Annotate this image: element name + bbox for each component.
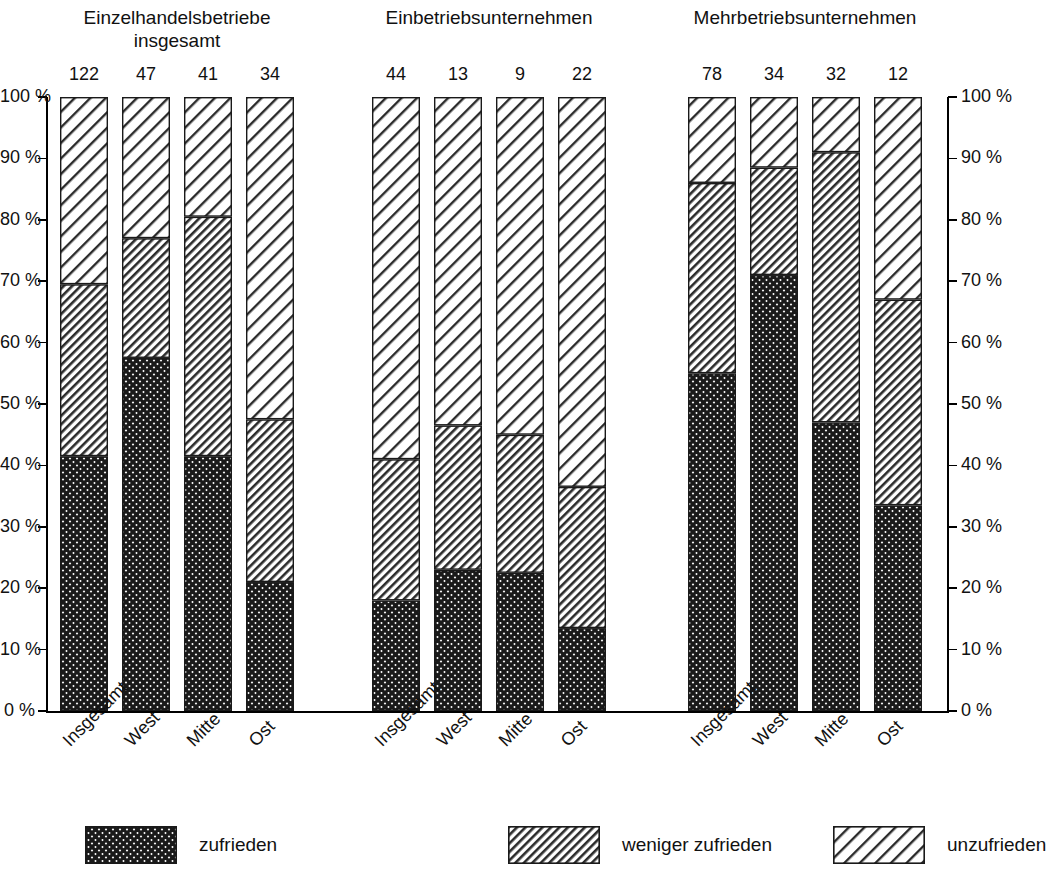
y-axis-tick-label-left: 20 %: [0, 577, 35, 598]
bar-count-label: 12: [874, 64, 922, 85]
y-axis-tick-label-right: 50 %: [961, 393, 1021, 414]
bar-count-label: 122: [60, 64, 108, 85]
bar-segment-dense-diagonal-hatch: [497, 435, 544, 572]
bar-segment-sparse-diagonal-hatch: [559, 98, 606, 486]
y-axis-tick-label-left: 70 %: [0, 270, 35, 291]
bar-segment-dense-diagonal-hatch: [813, 153, 860, 422]
bar-segment-cross-hatch-dark: [247, 583, 294, 711]
y-axis-tick-label-right: 0 %: [961, 700, 1021, 721]
bar-count-label: 34: [246, 64, 294, 85]
y-axis-tick: [948, 280, 957, 282]
y-axis-tick-label-right: 30 %: [961, 516, 1021, 537]
group-title: Mehrbetriebsunternehmen: [658, 6, 952, 29]
y-axis-tick-label-right: 70 %: [961, 270, 1021, 291]
group-title: Einzelhandelsbetriebe insgesamt: [30, 6, 324, 52]
bar-count-label: 44: [372, 64, 420, 85]
bar-segment-sparse-diagonal-hatch: [497, 98, 544, 434]
bar-segment-sparse-diagonal-hatch: [689, 98, 736, 183]
bar-segment-sparse-diagonal-hatch: [813, 98, 860, 152]
bar-segment-sparse-diagonal-hatch: [373, 98, 420, 459]
bar-count-label: 41: [184, 64, 232, 85]
bar-segment-cross-hatch-dark: [751, 276, 798, 711]
y-axis-tick: [948, 526, 957, 528]
y-axis-tick-label-left: 40 %: [0, 454, 35, 475]
bar-segment-sparse-diagonal-hatch: [123, 98, 170, 238]
legend-swatch-sparse-diagonal-hatch: [833, 826, 925, 864]
legend-item-unzufrieden[interactable]: unzufrieden: [833, 826, 1046, 864]
y-axis-tick: [948, 465, 957, 467]
y-axis-tick-label-left: 30 %: [0, 516, 35, 537]
bar-segment-cross-hatch-dark: [813, 423, 860, 710]
bar-segment-sparse-diagonal-hatch: [247, 98, 294, 419]
bar-segment-sparse-diagonal-hatch: [875, 98, 922, 299]
bar-segment-cross-hatch-dark: [689, 374, 736, 710]
y-axis-tick-label-right: 80 %: [961, 209, 1021, 230]
y-axis-tick-label-left: 10 %: [0, 639, 35, 660]
legend-label: unzufrieden: [947, 834, 1046, 856]
y-axis-tick: [948, 649, 957, 651]
bar-segment-cross-hatch-dark: [185, 457, 232, 710]
bar-segment-cross-hatch-dark: [123, 359, 170, 711]
bar-segment-dense-diagonal-hatch: [247, 420, 294, 581]
bar-segment-dense-diagonal-hatch: [123, 239, 170, 357]
y-axis-tick: [38, 710, 47, 712]
y-axis-tick-label-right: 40 %: [961, 454, 1021, 475]
legend-swatch-cross-hatch-dark: [85, 826, 177, 864]
bar-segment-cross-hatch-dark: [875, 506, 922, 710]
bar-segment-dense-diagonal-hatch: [373, 460, 420, 600]
x-axis-line: [46, 711, 949, 713]
bar-count-label: 34: [750, 64, 798, 85]
y-axis-tick-label-right: 20 %: [961, 577, 1021, 598]
bar-count-label: 13: [434, 64, 482, 85]
bar-segment-dense-diagonal-hatch: [751, 168, 798, 274]
y-axis-tick-label-left: 100 %: [0, 86, 35, 107]
bar-segment-sparse-diagonal-hatch: [435, 98, 482, 425]
bar-segment-dense-diagonal-hatch: [559, 488, 606, 628]
y-axis-tick-label-right: 90 %: [961, 147, 1021, 168]
legend-swatch-dense-diagonal-hatch: [508, 826, 600, 864]
y-axis-tick-label-left: 90 %: [0, 147, 35, 168]
y-axis-tick: [948, 158, 957, 160]
bar-segment-dense-diagonal-hatch: [185, 217, 232, 455]
bar-count-label: 47: [122, 64, 170, 85]
bar-count-label: 9: [496, 64, 544, 85]
y-axis-tick-label-left: 50 %: [0, 393, 35, 414]
bar-segment-dense-diagonal-hatch: [875, 300, 922, 504]
group-title: Einbetriebsunternehmen: [342, 6, 636, 29]
y-axis-tick: [948, 403, 957, 405]
legend-item-zufrieden[interactable]: zufrieden: [85, 826, 277, 864]
y-axis-tick: [948, 342, 957, 344]
bar-count-label: 22: [558, 64, 606, 85]
y-axis-tick: [948, 710, 957, 712]
bar-segment-sparse-diagonal-hatch: [185, 98, 232, 216]
y-axis-tick: [948, 96, 957, 98]
bar-count-label: 78: [688, 64, 736, 85]
bar-count-label: 32: [812, 64, 860, 85]
bar-segment-cross-hatch-dark: [61, 457, 108, 710]
bar-segment-sparse-diagonal-hatch: [61, 98, 108, 284]
legend-label: weniger zufrieden: [622, 834, 772, 856]
y-axis-tick-label-left: 0 %: [0, 700, 35, 721]
bar-segment-sparse-diagonal-hatch: [751, 98, 798, 167]
y-axis-tick-label-right: 60 %: [961, 332, 1021, 353]
bar-segment-dense-diagonal-hatch: [689, 184, 736, 373]
bar-segment-dense-diagonal-hatch: [435, 426, 482, 569]
bar-segment-cross-hatch-dark: [497, 574, 544, 711]
legend-item-weniger-zufrieden[interactable]: weniger zufrieden: [508, 826, 772, 864]
y-axis-tick: [948, 219, 957, 221]
bar-segment-cross-hatch-dark: [559, 629, 606, 710]
y-axis-tick-label-right: 10 %: [961, 639, 1021, 660]
legend-label: zufrieden: [199, 834, 277, 856]
y-axis-tick-label-left: 60 %: [0, 332, 35, 353]
y-axis-tick-label-right: 100 %: [961, 86, 1021, 107]
y-axis-tick: [948, 587, 957, 589]
y-axis-tick-label-left: 80 %: [0, 209, 35, 230]
bar-segment-dense-diagonal-hatch: [61, 285, 108, 456]
